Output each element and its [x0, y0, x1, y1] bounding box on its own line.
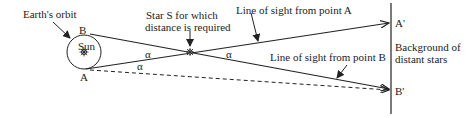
- sight-b-pointer-arrow: [337, 65, 347, 78]
- sun-label: Sun: [78, 40, 95, 52]
- alpha-label-3: α: [226, 48, 232, 60]
- sight-b-label: Line of sight from point B: [270, 51, 386, 63]
- reference-dashed-line: [90, 70, 389, 90]
- background-label-line2: distant stars: [395, 53, 447, 65]
- star-icon: [186, 48, 194, 56]
- sight-a-pointer-arrow: [251, 13, 258, 41]
- background-label-line1: Background of: [395, 41, 461, 53]
- alpha-label-1: α: [145, 48, 151, 60]
- orbit-pointer-arrow: [53, 22, 70, 38]
- point-b-label: B: [79, 24, 86, 36]
- star-label-line2: distance is required: [145, 21, 231, 33]
- point-a-label: A: [80, 71, 88, 83]
- earth-orbit-label: Earth's orbit: [23, 8, 77, 20]
- parallax-diagram: Earth's orbit B Sun A α α α Star S for w…: [0, 0, 476, 118]
- b-prime-label: B': [395, 85, 404, 97]
- sight-a-label: Line of sight from point A: [236, 4, 352, 16]
- alpha-label-2: α: [137, 60, 143, 72]
- star-label-line1: Star S for which: [146, 9, 218, 21]
- a-prime-label: A': [395, 17, 405, 29]
